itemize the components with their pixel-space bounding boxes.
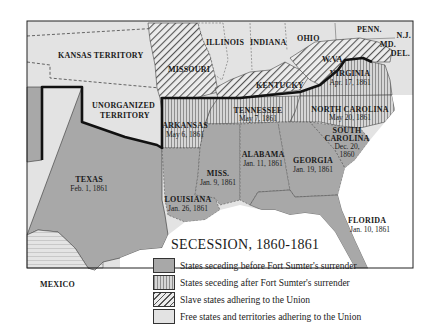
date-south-carolina-2: 1860 <box>340 150 355 159</box>
label-virginia: VIRGINIA <box>330 69 370 78</box>
swatch-before-icon <box>153 258 175 273</box>
label-illinois: ILLINOIS <box>206 38 244 47</box>
date-mississippi: Jan. 9, 1861 <box>200 178 236 187</box>
label-mississippi: MISS. <box>207 169 230 178</box>
legend-item-after: States seceding after Fort Sumter's surr… <box>153 274 383 291</box>
label-penn: PENN. <box>357 25 382 34</box>
label-arkansas: ARKANSAS <box>162 121 208 130</box>
date-georgia: Jan. 19, 1861 <box>293 165 333 174</box>
legend-item-before: States seceding before Fort Sumter's sur… <box>153 257 383 274</box>
date-texas: Feb. 1, 1861 <box>70 184 108 193</box>
legend-label: Slave states adhering to the Union <box>180 295 310 305</box>
label-unorganized-2: TERRITORY <box>100 111 150 120</box>
label-kansas: KANSAS TERRITORY <box>58 51 144 60</box>
legend-label: States seceding after Fort Sumter's surr… <box>180 278 350 288</box>
date-florida: Jan. 10, 1861 <box>350 225 390 234</box>
swatch-after-icon <box>153 275 175 290</box>
label-kentucky: KENTUCKY <box>256 81 304 90</box>
legend-item-slave: Slave states adhering to the Union <box>153 291 383 308</box>
label-wva: W.VA. <box>322 55 345 64</box>
date-virginia: Apr. 17, 1861 <box>329 78 371 87</box>
date-alabama: Jan. 11, 1861 <box>243 159 283 168</box>
date-arkansas: May 6, 1861 <box>166 130 204 139</box>
label-md: MD. <box>380 40 396 49</box>
legend-label: Free states and territories adhering to … <box>180 312 361 322</box>
label-ohio: OHIO <box>297 34 320 43</box>
label-del: DEL. <box>391 49 410 58</box>
label-alabama: ALABAMA <box>242 150 285 159</box>
label-unorganized: UNORGANIZED <box>92 101 155 110</box>
label-texas: TEXAS <box>75 175 103 184</box>
label-missouri: MISSOURI <box>168 65 210 74</box>
legend-title: SECESSION, 1860-1861 <box>171 237 383 253</box>
swatch-slave-icon <box>153 292 175 307</box>
date-louisiana: Jan. 26, 1861 <box>168 204 208 213</box>
legend-item-free: Free states and territories adhering to … <box>153 308 383 325</box>
label-mexico: MEXICO <box>40 280 75 289</box>
label-louisiana: LOUISIANA <box>164 195 211 204</box>
date-tennessee: May 7, 1861 <box>239 114 277 123</box>
label-nj: N.J. <box>396 31 411 40</box>
label-indiana: INDIANA <box>250 38 287 47</box>
date-north-carolina: May 20, 1861 <box>329 113 371 122</box>
label-florida: FLORIDA <box>348 216 386 225</box>
legend-label: States seceding before Fort Sumter's sur… <box>180 261 357 271</box>
label-georgia: GEORGIA <box>293 156 333 165</box>
map-legend: SECESSION, 1860-1861 States seceding bef… <box>153 237 383 325</box>
swatch-free-icon <box>153 309 175 324</box>
